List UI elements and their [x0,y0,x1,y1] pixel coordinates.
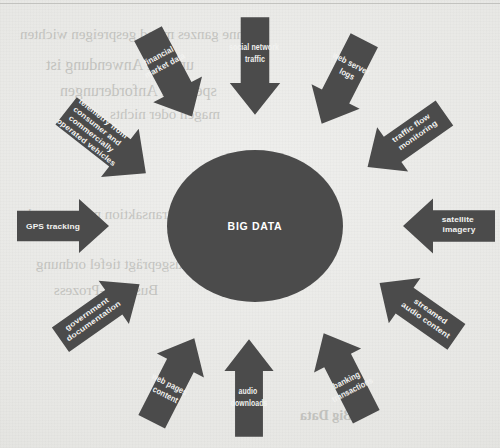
label-satellite-imagery-line2: imagery [443,226,476,235]
hub-label: BIG DATA [228,220,283,232]
arrow-banking-transactions: banking transactions [300,321,390,429]
svg-text:satellite imagery: satellite imagery [442,216,477,235]
arrow-telemetry-vehicles: telemetry from consumer and commercially… [47,86,165,197]
arrow-streamed-audio-content: streamed audio content [364,260,473,359]
arrow-social-network-traffic: social network traffic [229,17,281,115]
label-gps-tracking-line1: GPS tracking [26,222,80,231]
svg-text:social network traffic: social network traffic [229,42,281,64]
label-social-network-traffic-line2: traffic [245,54,266,64]
label-audio-downloads-line2: downloads [231,398,268,408]
big-data-sources-diagram: BIG DATA financial market data social ne… [0,0,500,448]
label-social-network-traffic-line1: social network [229,42,279,52]
arrow-audio-downloads: audio downloads [224,339,273,437]
arrow-web-server-logs: web server logs [298,28,389,136]
arrow-satellite-imagery: satellite imagery [403,198,495,253]
label-satellite-imagery-line1: satellite [442,216,475,225]
hub-big-data: BIG DATA [167,150,343,302]
arrow-gps-tracking: GPS tracking [17,199,109,253]
svg-text:GPS tracking: GPS tracking [26,222,80,231]
arrow-web-pages-content: web pages content [128,326,218,434]
arrow-financial-market-data: financial market data [124,21,217,130]
label-audio-downloads-line1: audio [239,387,258,397]
arrow-traffic-flow-monitoring: traffic flow monitoring [352,91,460,189]
arrow-government-documentation: government documentation [45,263,154,362]
